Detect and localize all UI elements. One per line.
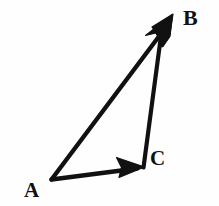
vertex-label-b: B: [183, 7, 198, 29]
vector-triangle-svg: [0, 0, 219, 206]
vertex-label-a: A: [24, 180, 39, 201]
vector-ab: [52, 27, 167, 180]
vertex-label-c: C: [150, 148, 165, 169]
figure-canvas: A B C: [0, 0, 219, 206]
arrowhead-ac: [117, 158, 145, 178]
vector-ab-shaft: [52, 27, 167, 180]
